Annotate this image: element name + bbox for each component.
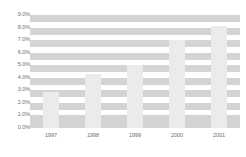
y-axis-tick-label: 0.0% [2,125,30,131]
y-axis-tick-label: 1.0% [2,112,30,118]
y-axis-tick-label: 7.0% [2,37,30,43]
bar [127,65,144,128]
bar [169,40,186,128]
y-axis-tick-label: 9.0% [2,12,30,18]
bar-chart: 9.0%8.0%7.0%6.0%5.0%4.0%3.0%2.0%1.0%0.0%… [0,0,246,157]
x-axis: 19971998199920002001 [30,133,240,149]
y-axis-tick-label: 3.0% [2,87,30,93]
bar [211,26,228,128]
x-axis-tick-label: 1997 [30,133,72,139]
y-axis: 9.0%8.0%7.0%6.0%5.0%4.0%3.0%2.0%1.0%0.0% [0,0,30,157]
y-axis-tick-label: 5.0% [2,62,30,68]
y-axis-tick-label: 4.0% [2,75,30,81]
y-axis-tick-label: 2.0% [2,100,30,106]
x-axis-tick-label: 2000 [156,133,198,139]
plot-area [30,15,240,128]
y-axis-tick-label: 6.0% [2,50,30,56]
bar [85,74,102,128]
bar [43,92,60,128]
y-axis-tick-label: 8.0% [2,25,30,31]
grid-band [30,53,240,60]
grid-band [30,15,240,22]
grid-band [30,28,240,35]
x-axis-tick-label: 1999 [114,133,156,139]
x-axis-tick-label: 2001 [198,133,240,139]
x-axis-tick-label: 1998 [72,133,114,139]
grid-band [30,40,240,47]
